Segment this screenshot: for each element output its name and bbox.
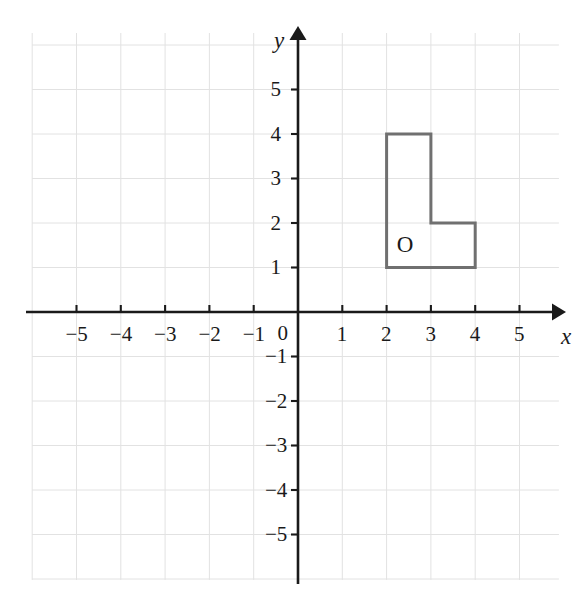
- x-axis-tick-label: −2: [198, 324, 220, 345]
- x-axis-tick-label: −3: [154, 324, 176, 345]
- x-axis-tick-label: −1: [243, 324, 265, 345]
- y-axis-tick-label: 1: [271, 257, 282, 278]
- x-axis-tick-label: −5: [66, 324, 88, 345]
- x-axis-name-label: x: [561, 325, 571, 348]
- shape-vertex-label: O: [397, 233, 414, 256]
- x-axis-tick-label: 2: [381, 324, 392, 345]
- y-axis-tick-label: 3: [271, 168, 282, 189]
- y-axis-tick-label: −5: [265, 524, 287, 545]
- x-axis-tick-label: 3: [425, 324, 436, 345]
- x-axis-tick-label: 4: [470, 324, 481, 345]
- y-axis-tick-label: 2: [271, 213, 282, 234]
- y-axis-tick-label: −2: [265, 391, 287, 412]
- y-axis-tick-label: 4: [271, 124, 282, 145]
- y-axis-tick-label: −3: [265, 435, 287, 456]
- x-axis-tick-label: 5: [514, 324, 525, 345]
- axes: [26, 26, 566, 584]
- y-axis-tick-label: 5: [271, 79, 282, 100]
- y-axis-tick-label: −4: [265, 480, 287, 501]
- grid-lines: [32, 33, 559, 580]
- x-axis-tick-label: 1: [337, 324, 348, 345]
- coordinate-plane-figure: −5−4−3−2−101234554321−1−2−3−4−5xyO: [0, 0, 586, 613]
- y-axis-arrowhead: [290, 26, 307, 40]
- plot-svg: [0, 0, 586, 613]
- y-axis-name-label: y: [274, 29, 284, 52]
- y-axis-tick-label: −1: [265, 346, 287, 367]
- x-axis-tick-label: −4: [110, 324, 132, 345]
- x-axis-origin-label: 0: [278, 323, 289, 344]
- x-axis-arrowhead: [552, 304, 566, 321]
